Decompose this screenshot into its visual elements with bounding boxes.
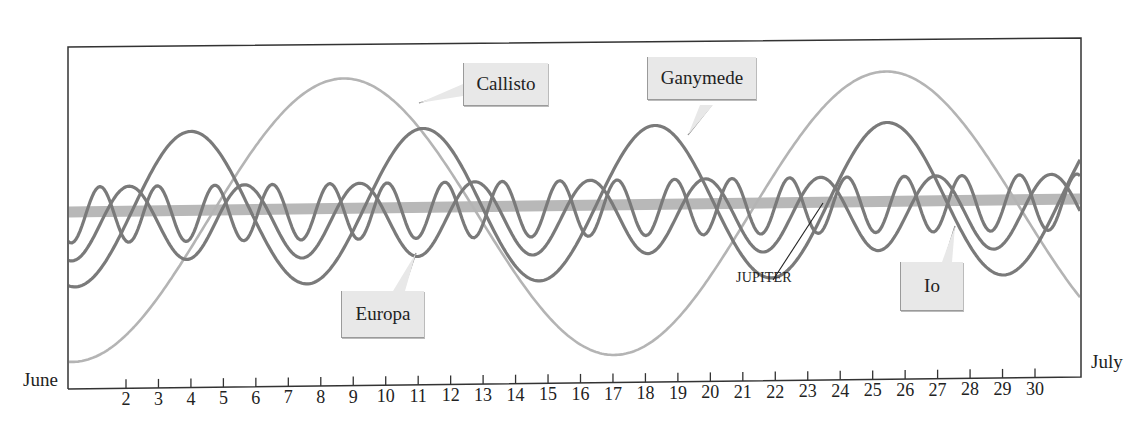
x-tick-label: 18 — [636, 383, 654, 404]
x-tick-label: 30 — [1026, 379, 1044, 400]
x-tick-label: 26 — [896, 380, 914, 401]
europa-label: Europa — [341, 291, 424, 338]
jupiter-label: JUPITER — [736, 270, 792, 286]
jupiter-leader — [773, 203, 823, 280]
x-tick-label: 23 — [799, 381, 817, 402]
x-tick-label: 28 — [961, 379, 979, 400]
x-tick-label: 27 — [929, 380, 947, 401]
x-tick-label: 20 — [701, 382, 719, 403]
x-tick-label: 2 — [122, 389, 131, 410]
x-tick-label: 4 — [186, 389, 195, 410]
callisto-label: Callisto — [463, 63, 548, 106]
x-tick-label: 29 — [994, 379, 1012, 400]
x-tick-label: 11 — [410, 386, 427, 407]
x-tick-label: 17 — [604, 384, 622, 405]
x-tick-label: 15 — [539, 384, 557, 405]
july-label: July — [1091, 351, 1123, 373]
x-tick-label: 12 — [442, 385, 460, 406]
june-label: June — [23, 369, 58, 391]
x-tick-label: 6 — [251, 388, 260, 409]
io-label: Io — [900, 262, 963, 311]
x-tick-label: 8 — [316, 387, 325, 408]
x-tick-label: 7 — [284, 387, 293, 408]
ganymede-pointer — [688, 105, 713, 135]
plot-area — [68, 72, 1081, 362]
x-tick-label: 25 — [864, 380, 882, 401]
callisto-pointer — [419, 84, 463, 103]
moon-orbit-chart — [0, 0, 1147, 429]
europa-pointer — [393, 253, 416, 291]
x-tick-label: 19 — [669, 383, 687, 404]
x-tick-label: 9 — [349, 387, 358, 408]
x-tick-label: 5 — [219, 388, 228, 409]
x-tick-label: 13 — [474, 385, 492, 406]
x-tick-label: 10 — [377, 386, 395, 407]
x-tick-label: 14 — [507, 385, 525, 406]
ganymede-label: Ganymede — [647, 57, 756, 100]
x-tick-label: 3 — [154, 389, 163, 410]
x-tick-label: 22 — [766, 382, 784, 403]
x-tick-label: 21 — [734, 382, 752, 403]
x-tick-label: 16 — [572, 384, 590, 405]
x-tick-label: 24 — [831, 381, 849, 402]
